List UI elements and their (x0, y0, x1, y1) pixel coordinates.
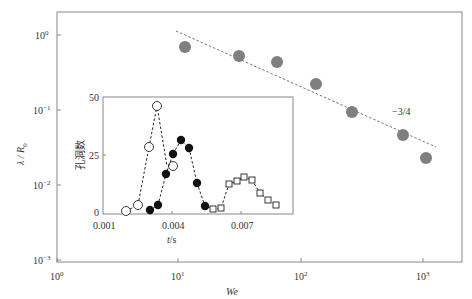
data-point (146, 206, 154, 214)
inset-frame (103, 97, 293, 214)
data-point (397, 129, 409, 141)
svg-text:10−2: 10−2 (33, 179, 51, 191)
data-point (273, 202, 279, 208)
data-point (226, 181, 232, 187)
data-point (179, 41, 191, 53)
inset-x-tick-labels: 0.001 0.004 0.007 (93, 220, 254, 231)
main-y-tick-labels: 100 10−1 10−2 10−3 (33, 29, 51, 266)
data-point (271, 56, 283, 68)
svg-text:0: 0 (94, 207, 99, 218)
data-point (241, 174, 247, 180)
svg-text:100: 100 (50, 270, 64, 282)
svg-text:0.007: 0.007 (231, 220, 254, 231)
inset-x-axis-label: t/s (167, 234, 177, 245)
svg-text:103: 103 (416, 270, 430, 282)
slope-annotation: −3/4 (392, 106, 410, 117)
data-point (177, 136, 185, 144)
data-point (210, 206, 216, 212)
svg-text:0.004: 0.004 (162, 220, 185, 231)
main-x-ticks (57, 258, 423, 262)
data-point (122, 207, 131, 216)
data-point (134, 201, 143, 210)
main-x-tick-labels: 100 101 102 103 (50, 270, 430, 282)
data-point (218, 205, 224, 211)
inset-y-tick-labels: 50 25 0 (89, 92, 99, 218)
data-point (310, 78, 322, 90)
data-point (201, 202, 209, 210)
data-point (185, 144, 193, 152)
data-point (145, 143, 154, 152)
svg-text:25: 25 (89, 150, 99, 161)
main-x-axis-label: We (226, 286, 238, 297)
svg-text:102: 102 (294, 270, 308, 282)
data-point (233, 50, 245, 62)
data-point (153, 102, 162, 111)
data-point (257, 190, 263, 196)
svg-text:10−1: 10−1 (33, 104, 51, 116)
data-point (169, 150, 177, 158)
data-point (346, 106, 358, 118)
data-point (162, 170, 170, 178)
chart: 100 101 102 103 We 100 10−1 10−2 10−3 λ … (0, 0, 472, 299)
svg-text:50: 50 (89, 92, 99, 103)
svg-text:10−3: 10−3 (33, 254, 51, 266)
data-point (234, 178, 240, 184)
svg-text:100: 100 (35, 29, 49, 41)
main-y-ticks (57, 35, 61, 260)
inset-y-axis-label: 孔洞数 (74, 140, 86, 170)
data-point (420, 152, 432, 164)
data-point (265, 197, 271, 203)
data-point (169, 162, 178, 171)
data-point (193, 179, 201, 187)
svg-text:101: 101 (171, 270, 185, 282)
svg-text:0.001: 0.001 (93, 220, 116, 231)
data-point (249, 177, 255, 183)
data-point (154, 201, 162, 209)
main-y-axis-label: λ / R0 (15, 143, 29, 166)
